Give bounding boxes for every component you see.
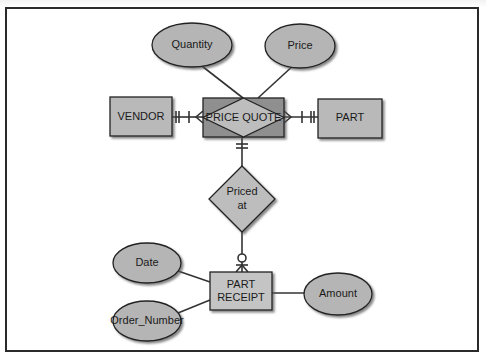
associative-entity-price-quote: PRICE QUOTE [203,98,284,137]
relationship-priced-at: Priced at [209,166,275,232]
attribute-label: Price [287,39,312,51]
entity-label: VENDOR [117,110,164,122]
attribute-price: Price [265,24,335,68]
line-date-partreceipt [178,271,210,282]
line-price-pricequote [258,64,295,98]
entity-part: PART [318,99,382,138]
er-diagram: Quantity Price Date Order_Number Amount … [0,0,486,362]
entity-label-line2: RECEIPT [217,291,265,303]
relationship-label-line2: at [237,199,246,211]
attribute-label: Date [135,256,158,268]
entity-label: PART [336,111,365,123]
attribute-label: Quantity [172,38,213,50]
entity-label-line1: PART [227,278,256,290]
line-quantity-pricequote [198,63,243,98]
entity-part-receipt: PART RECEIPT [210,272,272,310]
line-ordernumber-partreceipt [178,300,210,313]
attribute-label: Order_Number [110,314,184,326]
partreceipt-optional-circle [238,254,246,262]
relationship-label-line1: Priced [226,185,257,197]
attribute-date: Date [113,243,181,283]
attribute-quantity: Quantity [152,23,232,67]
associative-entity-label: PRICE QUOTE [206,111,282,123]
attribute-label: Amount [319,287,357,299]
attribute-order-number: Order_Number [110,301,184,341]
attribute-amount: Amount [304,273,372,315]
entity-vendor: VENDOR [110,97,172,136]
